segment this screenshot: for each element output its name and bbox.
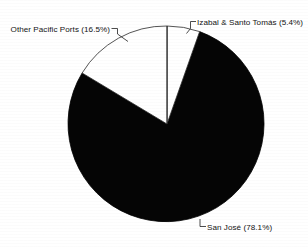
leader-line-other-pacific <box>112 29 118 35</box>
pie-label-izabal: Izabal & Santo Tomás (5.4%) <box>197 18 303 27</box>
leader-line-izabal <box>191 22 197 29</box>
pie-chart-svg: Izabal & Santo Tomás (5.4%) Other Pacifi… <box>0 0 308 247</box>
pie-chart-figure: Izabal & Santo Tomás (5.4%) Other Pacifi… <box>0 0 308 247</box>
pie-label-other-pacific: Other Pacific Ports (16.5%) <box>11 25 111 34</box>
leader-line-san-jose <box>200 219 206 227</box>
pie-label-san-jose: San José (78.1%) <box>207 223 272 232</box>
